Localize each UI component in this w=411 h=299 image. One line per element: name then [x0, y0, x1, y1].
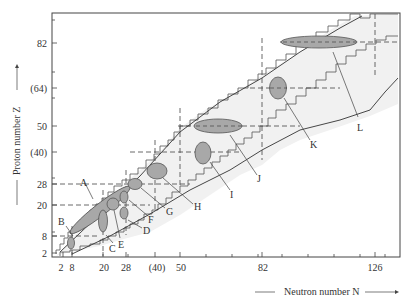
svg-text:82: 82 [258, 262, 268, 273]
svg-text:(64): (64) [30, 83, 47, 95]
svg-text:2: 2 [42, 248, 47, 259]
nuclear-chart: A B C D E F G H I J K L 2 8 20 28 (40) 5… [0, 0, 411, 299]
svg-text:8: 8 [70, 262, 75, 273]
svg-text:J: J [257, 173, 261, 184]
region-f-ellipse [120, 191, 128, 203]
y-axis-title: Proton number Z [11, 64, 22, 205]
svg-text:20: 20 [99, 262, 109, 273]
svg-text:B: B [58, 216, 65, 227]
x-tick-labels: 2 8 20 28 (40) 50 82 126 [59, 262, 383, 274]
region-e-ellipse [107, 198, 119, 210]
svg-text:82: 82 [37, 38, 47, 49]
svg-text:20: 20 [37, 200, 47, 211]
svg-text:Neutron number N: Neutron number N [284, 286, 360, 297]
svg-text:F: F [148, 214, 154, 225]
svg-text:K: K [310, 139, 318, 150]
svg-text:28: 28 [37, 179, 47, 190]
svg-text:H: H [194, 201, 201, 212]
y-tick-labels: 2 8 20 28 (40) 50 (64) 82 [30, 38, 47, 259]
y-ticks [52, 20, 57, 253]
region-d-ellipse [120, 207, 128, 219]
region-i-ellipse [195, 142, 211, 164]
region-g-ellipse [128, 179, 142, 190]
svg-text:2: 2 [59, 262, 64, 273]
region-h-ellipse [147, 163, 167, 179]
svg-text:8: 8 [42, 231, 47, 242]
svg-text:50: 50 [37, 121, 47, 132]
svg-text:Proton number Z: Proton number Z [11, 107, 22, 175]
x-axis-title: Neutron number N [255, 286, 399, 297]
svg-text:L: L [357, 122, 363, 133]
svg-text:A: A [80, 177, 88, 188]
svg-text:28: 28 [121, 262, 131, 273]
svg-text:I: I [230, 189, 233, 200]
svg-text:126: 126 [368, 262, 383, 273]
svg-text:C: C [109, 243, 116, 254]
region-b-ellipse [68, 237, 75, 249]
svg-text:(40): (40) [149, 262, 166, 274]
svg-text:50: 50 [176, 262, 186, 273]
svg-text:(40): (40) [30, 147, 47, 159]
svg-text:D: D [143, 225, 150, 236]
region-c-ellipse [99, 210, 108, 232]
svg-text:G: G [166, 206, 173, 217]
svg-text:E: E [118, 239, 124, 250]
